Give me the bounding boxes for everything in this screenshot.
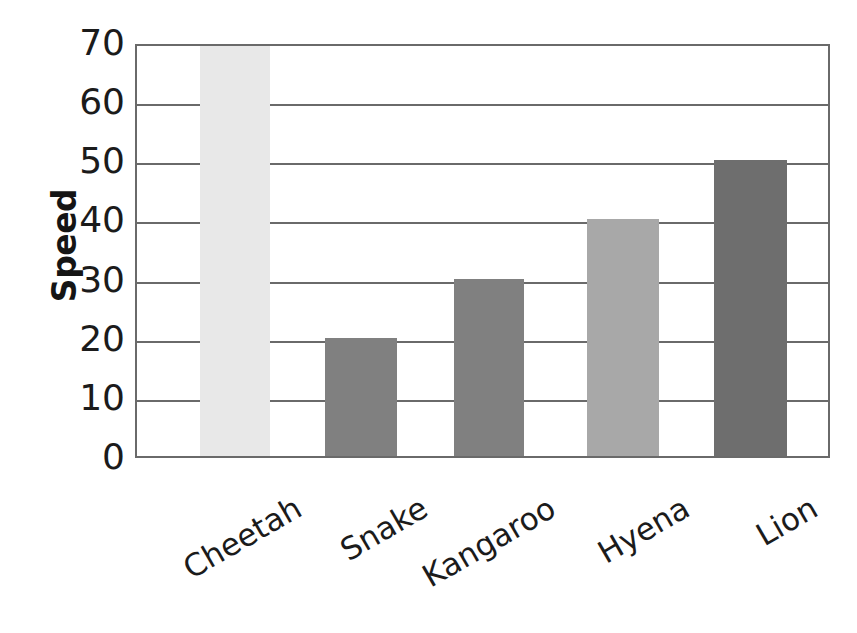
x-tick-label-hyena: Hyena bbox=[593, 492, 695, 569]
x-tick-label-text: Lion bbox=[751, 492, 822, 551]
x-axis-tick-labels: CheetahSnakeKangarooHyenaLion bbox=[135, 458, 830, 633]
bar-kangaroo bbox=[454, 279, 524, 456]
x-tick-label-snake: Snake bbox=[335, 492, 432, 566]
x-tick-label-text: Hyena bbox=[593, 492, 695, 569]
y-tick-label: 50 bbox=[35, 143, 125, 179]
x-tick-label-text: Cheetah bbox=[178, 492, 306, 584]
y-tick-label: 20 bbox=[35, 321, 125, 357]
x-tick-label-kangaroo: Kangaroo bbox=[418, 492, 561, 592]
y-axis-tick-labels: 010203040506070 bbox=[35, 0, 125, 633]
x-tick-label-lion: Lion bbox=[751, 492, 822, 551]
bars bbox=[137, 46, 828, 456]
y-axis-title-text: Speed bbox=[46, 188, 85, 301]
x-tick-label-text: Snake bbox=[335, 492, 432, 566]
x-tick-label-cheetah: Cheetah bbox=[178, 492, 306, 584]
plot-area bbox=[135, 44, 830, 458]
y-axis-title: Speed bbox=[0, 180, 130, 310]
bar-hyena bbox=[587, 219, 659, 456]
y-tick-label: 60 bbox=[35, 84, 125, 120]
y-tick-label: 10 bbox=[35, 380, 125, 416]
bar-snake bbox=[325, 338, 397, 456]
y-tick-label: 30 bbox=[35, 262, 125, 298]
bar-chart: Speed 010203040506070 CheetahSnakeKangar… bbox=[0, 0, 857, 633]
y-tick-label: 70 bbox=[35, 25, 125, 61]
y-tick-label: 0 bbox=[35, 439, 125, 475]
bar-cheetah bbox=[200, 44, 270, 456]
x-tick-label-text: Kangaroo bbox=[418, 492, 561, 592]
bar-lion bbox=[714, 160, 787, 456]
y-tick-label: 40 bbox=[35, 202, 125, 238]
